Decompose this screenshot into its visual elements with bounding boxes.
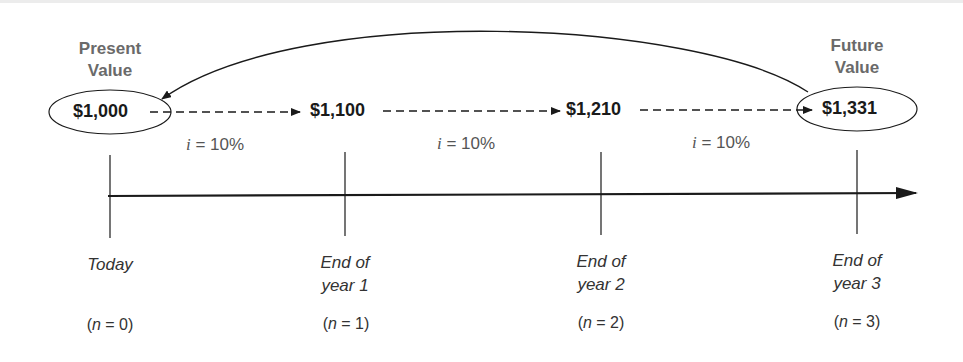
n-symbol: n — [583, 314, 592, 331]
heading-line: Present — [50, 38, 170, 60]
heading-line: Value — [797, 57, 917, 79]
compounding-arrows — [150, 110, 812, 112]
period-line: Today — [50, 253, 170, 276]
value-year-1: $1,100 — [310, 100, 365, 121]
rate-value: = 10% — [191, 135, 244, 154]
interest-rate-3: i = 10% — [692, 133, 750, 153]
period-label-1: End of year 1 — [285, 251, 405, 297]
period-label-2: End of year 2 — [541, 250, 661, 296]
period-line: End of — [541, 250, 661, 273]
discount-arc — [162, 31, 808, 99]
interest-rate-1: i = 10% — [186, 135, 244, 155]
n-symbol: n — [92, 316, 101, 333]
n-label-3: (n = 3) — [797, 313, 917, 331]
period-label-3: End of year 3 — [797, 249, 917, 295]
period-line: year 2 — [541, 273, 661, 296]
rate-value: = 10% — [697, 133, 750, 152]
rate-value: = 10% — [442, 134, 495, 153]
value-year-2: $1,210 — [566, 99, 621, 120]
period-line: year 1 — [285, 274, 405, 297]
value-year-3: $1,331 — [822, 98, 877, 119]
n-label-2: (n = 2) — [541, 314, 661, 332]
period-line: End of — [285, 251, 405, 274]
present-value-heading: Present Value — [50, 38, 170, 82]
heading-line: Future — [797, 35, 917, 57]
n-label-1: (n = 1) — [286, 315, 406, 333]
future-value-heading: Future Value — [797, 35, 917, 79]
time-axis — [108, 193, 916, 196]
n-value: = 1) — [337, 315, 369, 332]
n-symbol: n — [839, 313, 848, 330]
interest-rate-2: i = 10% — [437, 134, 495, 154]
n-value: = 0) — [101, 316, 133, 333]
period-line: year 3 — [797, 272, 917, 295]
period-label-0: Today — [50, 253, 170, 276]
heading-line: Value — [50, 60, 170, 82]
n-value: = 2) — [592, 314, 624, 331]
value-year-0: $1,000 — [73, 101, 128, 122]
n-value: = 3) — [848, 313, 880, 330]
period-line: End of — [797, 249, 917, 272]
n-label-0: (n = 0) — [50, 316, 170, 334]
n-symbol: n — [328, 315, 337, 332]
